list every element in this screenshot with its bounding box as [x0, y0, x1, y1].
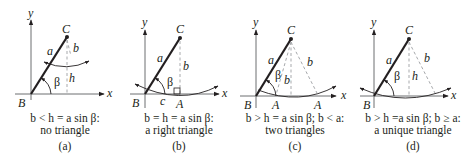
angle-beta-label: β	[54, 75, 60, 89]
y-axis-label: y	[141, 15, 148, 29]
angle-beta-label: β	[394, 69, 400, 83]
angle-beta-arc	[384, 80, 394, 96]
panel-label: (d)	[406, 140, 420, 153]
caption-line2: no triangle	[40, 124, 90, 137]
right-angle-mark	[174, 88, 180, 94]
side-a-label: a	[157, 51, 163, 65]
vertex-a-label: A	[175, 97, 184, 111]
caption-line2: a right triangle	[145, 124, 213, 137]
panel-d: y x C a b h β B b > h =a sin β; b ≥ a: a…	[360, 15, 461, 153]
vertex-c-point	[407, 37, 411, 41]
vertex-c-label: C	[287, 23, 296, 37]
vertex-c-point	[178, 36, 182, 40]
side-b-label: b	[424, 51, 430, 65]
panel-label: (b)	[172, 140, 186, 153]
caption-line2: a unique triangle	[374, 124, 451, 137]
vertex-c-point	[289, 37, 293, 41]
vertex-c-label: C	[405, 23, 414, 37]
vertex-c-label: C	[62, 22, 71, 36]
angle-beta-label: β	[275, 68, 281, 82]
ssa-triangle-cases-figure: y x C a b h β B b < h = a sin β: no tria…	[0, 0, 475, 157]
caption-line2: two triangles	[265, 124, 325, 137]
side-b-dashed	[67, 40, 71, 56]
y-axis-label: y	[370, 15, 377, 29]
vertex-b-label: B	[244, 98, 252, 112]
vertex-b-label: B	[363, 98, 371, 112]
angle-beta-arc	[41, 78, 51, 94]
vertex-a2-label: A	[313, 98, 322, 112]
side-b2-label: b	[307, 55, 313, 69]
side-b1-label: b	[284, 73, 290, 87]
panel-a: y x C a b h β B b < h = a sin β: no tria…	[15, 6, 113, 153]
height-h-label: h	[69, 71, 75, 85]
x-axis-label: x	[106, 86, 113, 100]
side-a-label: a	[386, 53, 392, 67]
side-c-label: c	[160, 94, 166, 108]
swing-arc-b	[258, 86, 336, 97]
panel-b: y x C a b β B c A b = h = a sin β: a rig…	[130, 15, 228, 153]
height-h-label: h	[412, 69, 418, 83]
y-axis-label: y	[252, 15, 259, 29]
x-axis-label: x	[221, 86, 228, 100]
panel-label: (c)	[289, 140, 302, 153]
panel-label: (a)	[59, 140, 72, 153]
side-b-label: b	[183, 59, 189, 73]
angle-beta-arc	[155, 78, 165, 94]
panel-c: y x C a b b β B A A b > h = a sin β; b <…	[240, 15, 347, 153]
x-axis-label: x	[450, 88, 457, 102]
x-axis-label: x	[340, 88, 347, 102]
angle-beta-label: β	[167, 75, 173, 89]
y-axis-label: y	[27, 6, 34, 20]
side-b2-dashed	[291, 42, 318, 95]
vertex-c-label: C	[176, 22, 185, 36]
side-a-label: a	[47, 44, 53, 58]
side-a-label: a	[268, 53, 274, 67]
vertex-b-label: B	[18, 96, 26, 110]
vertex-a1-label: A	[271, 98, 280, 112]
vertex-b-label: B	[132, 96, 140, 110]
side-b-label: b	[73, 41, 79, 55]
